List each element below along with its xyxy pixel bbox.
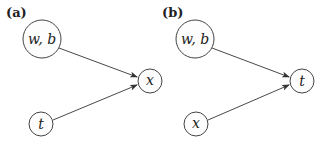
node-b-t: t xyxy=(290,69,314,93)
node-a-t: t xyxy=(29,112,53,136)
node-a-wb: w, b xyxy=(23,20,61,58)
node-a-x-label: x xyxy=(146,72,154,88)
node-b-wb-label: w, b xyxy=(181,31,209,47)
diagram-canvas: (a) w, b x t (b) w, b t x xyxy=(0,0,327,145)
edge-b-x-to-t xyxy=(208,85,289,120)
edge-a-wb-to-x xyxy=(59,48,137,77)
node-b-t-label: t xyxy=(299,73,305,89)
node-a-wb-label: w, b xyxy=(28,31,56,47)
node-a-x: x xyxy=(138,69,162,93)
node-b-wb: w, b xyxy=(176,20,214,58)
node-b-x: x xyxy=(184,112,208,136)
panel-b-label: (b) xyxy=(162,5,183,20)
edge-a-t-to-x xyxy=(53,85,137,120)
node-b-x-label: x xyxy=(192,115,200,131)
node-a-t-label: t xyxy=(38,116,44,132)
panel-a-label: (a) xyxy=(6,5,27,20)
panel-a: (a) w, b x t xyxy=(6,5,162,136)
edge-b-wb-to-t xyxy=(212,48,289,77)
panel-b: (b) w, b t x xyxy=(162,5,314,136)
